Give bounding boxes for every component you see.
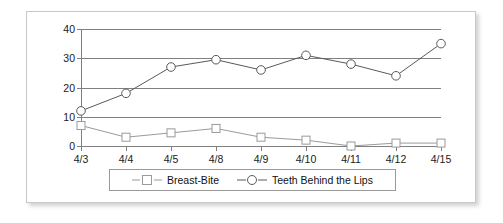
data-point-circle bbox=[257, 66, 266, 75]
data-point-square bbox=[122, 133, 130, 141]
data-point-circle bbox=[347, 60, 356, 69]
square-marker-icon bbox=[132, 174, 162, 186]
data-point-circle bbox=[392, 72, 401, 81]
x-tick-mark bbox=[441, 147, 442, 151]
x-axis-line: 4/34/44/54/84/94/104/114/124/15 bbox=[81, 146, 441, 147]
x-tick-label: 4/9 bbox=[254, 154, 269, 165]
x-tick-label: 4/15 bbox=[431, 154, 451, 165]
legend-entry-breast-bite[interactable]: Breast-Bite bbox=[132, 174, 219, 186]
series-breast-bite bbox=[77, 122, 445, 150]
data-point-circle bbox=[437, 39, 446, 48]
screenshot-root: 010203040 4/34/44/54/84/94/104/114/124/1… bbox=[0, 0, 503, 223]
data-point-square bbox=[302, 136, 310, 144]
x-tick-label: 4/5 bbox=[164, 154, 179, 165]
x-tick-mark bbox=[81, 147, 82, 151]
data-point-square bbox=[167, 129, 175, 137]
x-tick-mark bbox=[126, 147, 127, 151]
data-point-square bbox=[77, 122, 85, 130]
chart-card: 010203040 4/34/44/54/84/94/104/114/124/1… bbox=[26, 11, 476, 203]
data-point-circle bbox=[302, 51, 311, 60]
x-tick-mark bbox=[171, 147, 172, 151]
data-point-circle bbox=[212, 55, 221, 64]
circle-marker-icon bbox=[237, 174, 267, 186]
x-tick-label: 4/3 bbox=[74, 154, 89, 165]
data-point-square bbox=[257, 133, 265, 141]
series-plot bbox=[81, 29, 441, 146]
data-point-circle bbox=[77, 107, 86, 116]
legend-label-teeth-behind-the-lips: Teeth Behind the Lips bbox=[272, 175, 373, 186]
y-tick-label: 30 bbox=[63, 53, 75, 64]
legend-entry-teeth-behind-the-lips[interactable]: Teeth Behind the Lips bbox=[237, 174, 373, 186]
legend-label-breast-bite: Breast-Bite bbox=[167, 175, 219, 186]
x-tick-label: 4/11 bbox=[341, 154, 361, 165]
x-tick-label: 4/12 bbox=[386, 154, 406, 165]
data-point-square bbox=[347, 142, 355, 150]
data-point-square bbox=[392, 139, 400, 147]
x-tick-mark bbox=[216, 147, 217, 151]
x-tick-mark bbox=[306, 147, 307, 151]
x-tick-label: 4/10 bbox=[296, 154, 316, 165]
data-point-square bbox=[437, 139, 445, 147]
y-tick-label: 0 bbox=[69, 141, 75, 152]
data-point-circle bbox=[167, 63, 176, 72]
series-teeth-behind-the-lips bbox=[77, 39, 446, 115]
y-tick-label: 40 bbox=[63, 24, 75, 35]
x-tick-label: 4/4 bbox=[119, 154, 134, 165]
y-tick-label: 10 bbox=[63, 112, 75, 123]
chart-legend: Breast-Bite Teeth Behind the Lips bbox=[109, 169, 396, 191]
x-tick-mark bbox=[261, 147, 262, 151]
x-tick-label: 4/8 bbox=[209, 154, 224, 165]
y-tick-label: 20 bbox=[63, 82, 75, 93]
x-tick-mark bbox=[396, 147, 397, 151]
data-point-square bbox=[212, 124, 220, 132]
series-line bbox=[81, 44, 441, 111]
data-point-circle bbox=[122, 89, 131, 98]
